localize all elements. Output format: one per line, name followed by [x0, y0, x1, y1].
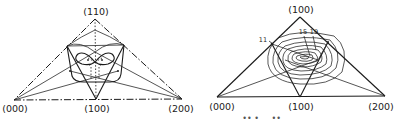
left-label-bottom-right: (200) [168, 103, 194, 114]
right-vertex-dot-right [327, 41, 329, 43]
right-leader-15 [304, 36, 310, 56]
left-line-d [70, 71, 182, 99]
left-median [95, 19, 96, 99]
left-chord-flat [67, 45, 124, 46]
left-loop-1 [76, 53, 95, 65]
right-label-bottom-mid: (100) [288, 101, 314, 112]
left-edge-bottom [14, 99, 182, 100]
right-label-bottom-left: (000) [209, 101, 235, 112]
right-label-apex: (100) [288, 4, 314, 15]
left-loop-2 [95, 53, 114, 65]
right-contour-label-19: 19 [310, 28, 318, 36]
left-label-bottom-mid: (100) [84, 103, 110, 114]
right-label-bottom-right: (200) [368, 101, 394, 112]
figure-canvas: (110) (000) (100) (200) [0, 0, 400, 119]
caption-fragment: ... •• • ... •• [232, 114, 281, 119]
right-vertex-dot-left [271, 43, 274, 46]
left-label-bottom-left: (000) [2, 103, 28, 114]
right-contour-label-11: 11 [259, 36, 267, 44]
right-diagram: 11 15 19 (100) (000) (100) (200) ... •• … [209, 4, 394, 119]
left-diagram: (110) (000) (100) (200) [2, 6, 194, 114]
right-contour-label-15: 15 [299, 28, 307, 36]
left-cross [88, 58, 102, 66]
left-label-apex: (110) [83, 6, 109, 17]
